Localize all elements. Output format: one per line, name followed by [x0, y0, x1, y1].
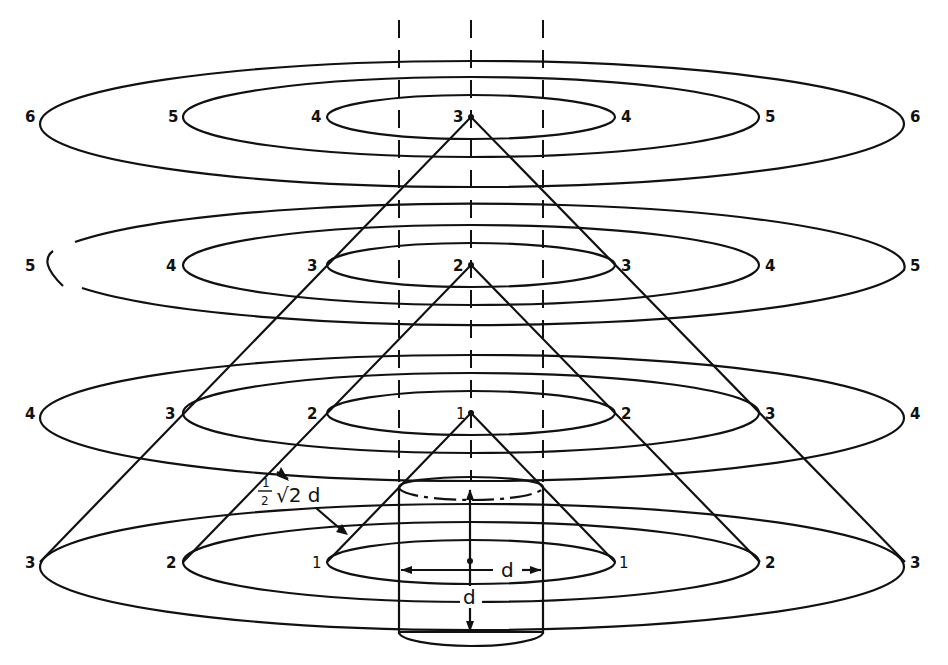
- cones: [40, 114, 905, 562]
- ring-l2-outer-left-fragment: [47, 251, 63, 286]
- label-l4-left-2: 2: [166, 554, 176, 572]
- label-l4-right-2: 2: [765, 554, 775, 572]
- label-l2-right-4: 4: [765, 257, 775, 275]
- height-arrow-up: [466, 489, 474, 500]
- apex-dot-l2: [468, 262, 474, 268]
- label-l2-right-5: 5: [910, 257, 920, 275]
- label-l3-right-2: 2: [621, 405, 631, 423]
- height-label: d: [463, 585, 476, 609]
- cone-ring-diagram: d d 1 2 √2 d 6 5 4 3 4 5 6 5 4 3 2 3 4 5…: [0, 0, 948, 665]
- label-l1-right-5: 5: [765, 108, 775, 126]
- label-l2-left-5: 5: [25, 257, 35, 275]
- label-l2-left-3: 3: [307, 257, 317, 275]
- slant-fraction-numerator: 1: [262, 476, 270, 490]
- slant-arrow-upper: [277, 467, 289, 481]
- diameter-arrow-left: [401, 566, 412, 574]
- label-l4-left-3: 3: [25, 554, 35, 572]
- label-l2-left-4: 4: [166, 257, 176, 275]
- label-l1-left-4: 4: [311, 108, 321, 126]
- label-l3-apex-1: 1: [456, 405, 466, 423]
- slant-fraction-denominator: 2: [261, 494, 269, 508]
- diameter-arrow-right: [530, 566, 541, 574]
- label-l1-right-4: 4: [621, 108, 631, 126]
- slant-label-rest: √2 d: [276, 483, 321, 507]
- diameter-label: d: [501, 558, 514, 582]
- label-l3-left-2: 2: [307, 405, 317, 423]
- cylinder-center-dot: [467, 558, 473, 564]
- label-l4-right-1: 1: [619, 554, 629, 572]
- label-l3-right-4: 4: [910, 405, 920, 423]
- label-l1-left-5: 5: [168, 108, 178, 126]
- label-l2-apex-2: 2: [453, 257, 463, 275]
- label-l1-apex-3: 3: [453, 108, 463, 126]
- label-l3-left-3: 3: [165, 405, 175, 423]
- cylinder-bottom: [399, 632, 543, 646]
- label-l4-left-1: 1: [312, 554, 322, 572]
- label-l1-right-6: 6: [910, 108, 920, 126]
- cone-large: [40, 117, 905, 562]
- apex-dot-l1: [468, 114, 474, 120]
- apex-dot-l3: [468, 410, 474, 416]
- label-l4-right-3: 3: [910, 554, 920, 572]
- label-l3-left-4: 4: [25, 405, 35, 423]
- ring-l2-outer: [75, 204, 905, 325]
- label-l2-right-3: 3: [621, 257, 631, 275]
- cylinder: d d: [399, 477, 543, 646]
- label-l1-left-6: 6: [25, 108, 35, 126]
- label-l3-right-3: 3: [765, 405, 775, 423]
